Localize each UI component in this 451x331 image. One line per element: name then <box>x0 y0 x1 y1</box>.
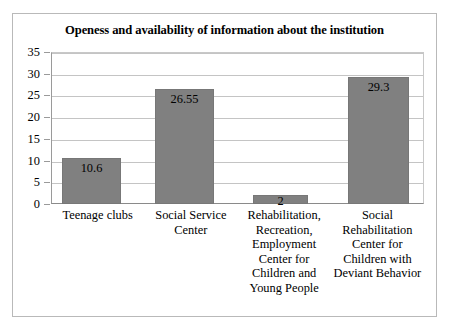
gridline <box>52 75 423 76</box>
y-tick-mark <box>44 74 50 75</box>
y-tick-mark <box>44 95 50 96</box>
gridline <box>52 140 423 141</box>
y-tick-mark <box>44 117 50 118</box>
y-tick-mark <box>44 52 50 53</box>
y-tick-label: 20 <box>0 110 46 125</box>
chart-title: Openess and availability of information … <box>13 23 436 38</box>
gridline <box>52 96 423 97</box>
y-tick-label: 10 <box>0 153 46 168</box>
y-tick-mark <box>44 182 50 183</box>
x-axis: Teenage clubs Social Service Center Reha… <box>51 208 424 308</box>
y-tick-label: 25 <box>0 88 46 103</box>
y-tick-label: 0 <box>0 197 46 212</box>
gridline <box>52 118 423 119</box>
y-tick-label: 35 <box>0 45 46 60</box>
x-category-label: Social Rehabilitation Center for Childre… <box>331 208 424 308</box>
x-category-label: Rehabilitation, Recreation, Employment C… <box>238 208 331 308</box>
y-tick-label: 5 <box>0 175 46 190</box>
x-category-label: Teenage clubs <box>51 208 144 308</box>
y-tick-label: 30 <box>0 66 46 81</box>
plot-area <box>51 52 424 204</box>
gridline <box>52 162 423 163</box>
y-tick-mark <box>44 139 50 140</box>
y-axis: 35 30 25 20 15 10 5 0 <box>0 52 46 204</box>
gridline <box>52 53 423 54</box>
y-tick-label: 15 <box>0 131 46 146</box>
y-tick-mark <box>44 161 50 162</box>
gridline <box>52 183 423 184</box>
x-category-label: Social Service Center <box>144 208 237 308</box>
y-tick-mark <box>44 204 50 205</box>
